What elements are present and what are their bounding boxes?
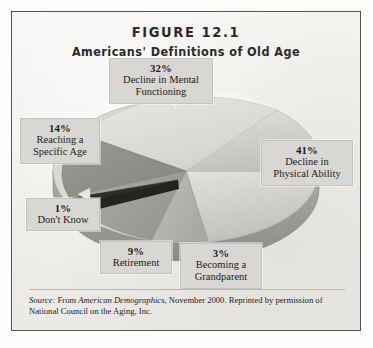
- callout-reaching-age[interactable]: 14% Reaching a Specific Age: [20, 118, 100, 164]
- callout-decline-mental-pct: 32%: [116, 62, 206, 74]
- figure-frame: FIGURE 12.1 Americans' Definitions of Ol…: [11, 11, 361, 331]
- callout-decline-mental[interactable]: 32% Decline in Mental Functioning: [109, 58, 213, 104]
- source-publication: American Demographics: [78, 295, 164, 305]
- source-note: Source: From American Demographics, Nove…: [29, 295, 347, 318]
- callout-grandparent-desc: Becoming a Grandparent: [187, 259, 255, 283]
- pie-chart: 32% Decline in Mental Functioning 14% Re…: [12, 52, 360, 284]
- callout-grandparent-pct: 3%: [187, 247, 255, 259]
- callout-decline-physical-desc: Decline in Physical Ability: [268, 156, 346, 180]
- callout-reaching-age-desc: Reaching a Specific Age: [27, 134, 93, 158]
- callout-retirement-pct: 9%: [107, 245, 165, 257]
- figure-number: FIGURE 12.1: [12, 24, 360, 40]
- source-divider: [29, 289, 345, 290]
- callout-grandparent[interactable]: 3% Becoming a Grandparent: [180, 243, 262, 289]
- callout-decline-physical-pct: 41%: [268, 144, 346, 156]
- figure-root: FIGURE 12.1 Americans' Definitions of Ol…: [0, 0, 373, 348]
- callout-dont-know-desc: Don't Know: [33, 214, 93, 226]
- source-text-before: From: [55, 295, 78, 305]
- source-label: Source:: [29, 295, 55, 305]
- callout-retirement[interactable]: 9% Retirement: [100, 241, 172, 274]
- callout-decline-mental-desc: Decline in Mental Functioning: [116, 74, 206, 98]
- callout-reaching-age-pct: 14%: [27, 122, 93, 134]
- callout-decline-physical[interactable]: 41% Decline in Physical Ability: [261, 140, 353, 186]
- callout-retirement-desc: Retirement: [107, 257, 165, 269]
- callout-dont-know[interactable]: 1% Don't Know: [26, 198, 100, 231]
- callout-dont-know-pct: 1%: [33, 202, 93, 214]
